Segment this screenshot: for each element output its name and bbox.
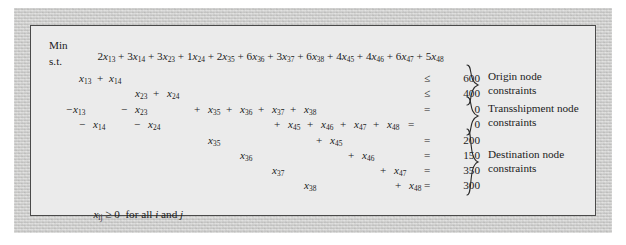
op-plus-9: + <box>354 50 366 62</box>
row-trans-1-op-minus-1: − <box>66 104 72 115</box>
row-trans-2-term-x24: x24 <box>148 119 160 131</box>
sub-14: 14 <box>98 123 105 132</box>
sub-48: 48 <box>414 184 421 193</box>
row-trans-2-op-plus-4: + <box>373 119 379 130</box>
subject-to-label: s.t. <box>49 56 62 67</box>
op-plus-8: + <box>324 50 336 62</box>
sub-36: 36 <box>257 55 264 64</box>
var-x23: x23 <box>163 50 175 62</box>
label-origin-node-constraints: Origin node constraints <box>488 70 593 98</box>
var-x47: x47 <box>401 50 413 62</box>
var-x48: x48 <box>431 50 443 62</box>
row-trans-2-op-minus-2: − <box>134 119 140 130</box>
sub-13: 13 <box>84 77 91 86</box>
var-x37: x37 <box>282 50 294 62</box>
lp-model: Min 2x13 + 3x14 + 3x23 + 1x24 + 2x35 + 6… <box>31 26 597 217</box>
op-plus-6: + <box>265 50 277 62</box>
row-origin-1-term-x14: x14 <box>109 73 121 85</box>
sub-37: 37 <box>277 169 284 178</box>
row-trans-2-relation: = <box>408 119 422 130</box>
var-x46: x46 <box>372 50 384 62</box>
sub-48: 48 <box>392 123 399 132</box>
sub-35: 35 <box>213 108 220 117</box>
sub-45: 45 <box>347 55 354 64</box>
row-origin-2-term-x24: x24 <box>167 88 179 100</box>
row-origin-2-op-plus: + <box>153 88 159 99</box>
row-trans-1-op-plus-1: + <box>194 104 200 115</box>
row-dest-2-op-plus: + <box>348 150 354 161</box>
sub-36: 36 <box>245 154 252 163</box>
sub-48: 48 <box>436 55 443 64</box>
row-trans-1-term-x38: x38 <box>304 104 316 116</box>
sub-38: 38 <box>309 184 316 193</box>
row-dest-4-term-x48: x48 <box>409 180 421 192</box>
row-trans-1-op-plus-2: + <box>226 104 232 115</box>
sub-45: 45 <box>293 123 300 132</box>
row-dest-2-term-x36: x36 <box>240 150 252 162</box>
op-plus-10: + <box>384 50 396 62</box>
var-x35: x35 <box>222 50 234 62</box>
sub-14: 14 <box>114 77 121 86</box>
row-dest-4-op-plus: + <box>395 180 401 191</box>
coef-4-x46: 4 <box>366 50 372 62</box>
sub-13: 13 <box>78 108 85 117</box>
row-trans-2-term-x47: x47 <box>354 119 366 131</box>
row-dest-3-op-plus: + <box>380 165 386 176</box>
row-trans-2-term-x48: x48 <box>387 119 399 131</box>
coef-3-x14: 3 <box>127 50 133 62</box>
row-dest-4-term-x38: x38 <box>304 180 316 192</box>
sub-35: 35 <box>227 55 234 64</box>
op-plus-1: + <box>115 50 127 62</box>
var-x13: x13 <box>103 50 115 62</box>
sub-46: 46 <box>326 123 333 132</box>
op-plus-4: + <box>205 50 217 62</box>
row-origin-2-term-x23: x23 <box>135 88 147 100</box>
sub-36: 36 <box>245 108 252 117</box>
sub-23: 23 <box>140 108 147 117</box>
row-trans-2-term-x14: x14 <box>93 119 105 131</box>
sub-47: 47 <box>406 55 413 64</box>
row-trans-1-op-plus-4: + <box>290 104 296 115</box>
sub-24: 24 <box>153 123 160 132</box>
row-trans-2-op-minus-1: − <box>79 119 85 130</box>
row-trans-2-op-plus-1: + <box>274 119 280 130</box>
row-trans-2-op-plus-3: + <box>340 119 346 130</box>
sub-35: 35 <box>213 139 220 148</box>
coef-1-x24: 1 <box>187 50 193 62</box>
row-trans-1-op-minus-2: − <box>121 104 127 115</box>
row-dest-3-term-x47: x47 <box>394 165 406 177</box>
formulation-panel: Min 2x13 + 3x14 + 3x23 + 1x24 + 2x35 + 6… <box>30 25 596 216</box>
sub-24: 24 <box>172 92 179 101</box>
coef-3-x23: 3 <box>157 50 163 62</box>
row-origin-1-op-plus: + <box>97 73 103 84</box>
op-plus-3: + <box>175 50 187 62</box>
row-dest-1-term-x35: x35 <box>208 135 220 147</box>
objective-expression: 2x13 + 3x14 + 3x23 + 1x24 + 2x35 + 6x36 … <box>75 40 444 75</box>
row-trans-1-term-x23: x23 <box>135 104 147 116</box>
nonneg-and: and <box>158 208 180 220</box>
op-plus-7: + <box>294 50 306 62</box>
sub-46: 46 <box>377 55 384 64</box>
sub-23: 23 <box>168 55 175 64</box>
sub-23: 23 <box>140 92 147 101</box>
sub-38: 38 <box>309 108 316 117</box>
label-transshipment-node-constraints: Transshipment node constraints <box>488 102 596 130</box>
row-dest-1-op-plus: + <box>316 135 322 146</box>
sub-46: 46 <box>367 154 374 163</box>
row-dest-3-term-x37: x37 <box>272 165 284 177</box>
objective-keyword: Min <box>49 40 68 51</box>
op-plus-11: + <box>414 50 426 62</box>
row-dest-2-term-x46: x46 <box>362 150 374 162</box>
row-trans-1-op-plus-3: + <box>258 104 264 115</box>
sub-45: 45 <box>335 139 342 148</box>
brace-destination-group <box>465 128 481 196</box>
op-plus-2: + <box>145 50 157 62</box>
var-x38: x38 <box>312 50 324 62</box>
label-destination-node-constraints: Destination node constraints <box>488 148 596 176</box>
coef-4-x45: 4 <box>336 50 342 62</box>
var-x14: x14 <box>133 50 145 62</box>
row-trans-1-term-x35: x35 <box>208 104 220 116</box>
row-trans-2-term-x45: x45 <box>288 119 300 131</box>
row-trans-2-op-plus-2: + <box>307 119 313 130</box>
row-dest-1-term-x45: x45 <box>330 135 342 147</box>
